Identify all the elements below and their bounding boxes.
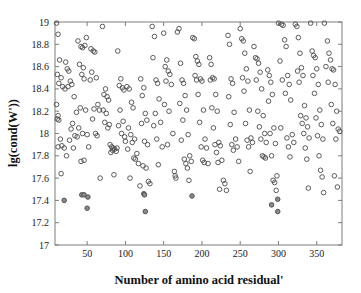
data-point-open xyxy=(232,110,237,115)
data-point-filled xyxy=(269,203,274,208)
data-point-filled xyxy=(275,197,280,202)
data-point-filled xyxy=(275,209,280,214)
data-point-filled xyxy=(143,209,148,214)
data-point-open xyxy=(285,73,290,78)
data-point-open xyxy=(88,78,93,83)
data-point-open xyxy=(145,142,150,147)
data-point-open xyxy=(304,157,309,162)
data-point-open xyxy=(328,58,333,63)
x-tick-label: 350 xyxy=(309,248,324,259)
data-point-open xyxy=(245,138,250,143)
data-point-open xyxy=(160,145,165,150)
data-point-open xyxy=(235,145,240,150)
data-point-open xyxy=(71,146,76,151)
data-point-open xyxy=(177,101,182,106)
data-point-open xyxy=(164,58,169,63)
data-point-open xyxy=(136,161,141,166)
data-point-open xyxy=(295,69,300,74)
data-point-open xyxy=(321,137,326,142)
data-point-open xyxy=(217,187,222,192)
data-point-open xyxy=(319,122,324,127)
data-point-open xyxy=(187,154,192,159)
data-point-open xyxy=(311,73,316,78)
y-tick-label: 18.6 xyxy=(32,61,50,72)
data-point-open xyxy=(69,127,74,132)
data-point-open xyxy=(256,109,261,114)
data-point-open xyxy=(274,188,279,193)
data-point-open xyxy=(229,77,234,82)
data-point-open xyxy=(305,125,310,130)
y-tick-label: 17.4 xyxy=(32,195,50,206)
x-tick-labels: 50100150200250300350 xyxy=(82,248,324,259)
data-point-open xyxy=(243,51,248,56)
data-point-open xyxy=(67,138,72,143)
data-point-filled xyxy=(190,194,195,199)
data-point-open xyxy=(151,123,156,128)
data-point-open xyxy=(203,137,208,142)
data-point-open xyxy=(184,161,189,166)
data-point-open xyxy=(197,120,202,125)
data-point-open xyxy=(182,157,187,162)
data-point-open xyxy=(283,91,288,96)
data-point-open xyxy=(286,145,291,150)
data-point-open xyxy=(233,137,238,142)
data-point-open xyxy=(303,146,308,151)
data-point-open xyxy=(58,137,63,142)
data-point-open xyxy=(267,73,272,78)
data-point-open xyxy=(273,141,278,146)
data-point-open xyxy=(163,64,168,69)
data-point-open xyxy=(297,80,302,85)
data-point-open xyxy=(278,59,283,64)
data-point-open xyxy=(333,82,338,87)
data-point-open xyxy=(290,132,295,137)
data-point-open xyxy=(185,166,190,171)
data-point-open xyxy=(317,154,322,159)
y-tick-label: 18.4 xyxy=(32,83,50,94)
data-point-open xyxy=(83,108,88,113)
data-point-open xyxy=(184,108,189,113)
data-point-open xyxy=(131,106,136,111)
data-point-open xyxy=(161,31,166,36)
data-point-open xyxy=(266,99,271,104)
data-point-open xyxy=(259,87,264,92)
data-point-open xyxy=(268,131,273,136)
data-point-open xyxy=(326,80,331,85)
data-point-open xyxy=(102,120,107,125)
data-point-open xyxy=(82,77,87,82)
x-axis-title: Number of amino acid residual' xyxy=(115,273,284,287)
data-point-open xyxy=(213,92,218,97)
x-tick-label: 50 xyxy=(82,248,92,259)
data-point-open xyxy=(126,126,131,131)
data-point-open xyxy=(121,119,126,124)
data-point-open xyxy=(250,140,255,145)
data-point-open xyxy=(77,62,82,67)
data-point-open xyxy=(264,140,269,145)
data-point-open xyxy=(254,78,259,83)
data-point-open xyxy=(335,185,340,190)
data-point-open xyxy=(269,80,274,85)
data-point-open xyxy=(165,142,170,147)
data-point-open xyxy=(215,109,220,114)
data-point-open xyxy=(298,51,303,56)
data-point-open xyxy=(138,77,143,82)
data-point-open xyxy=(151,55,156,60)
data-point-open xyxy=(141,85,146,90)
data-point-open xyxy=(187,178,192,183)
data-point-open xyxy=(153,111,158,116)
data-point-open xyxy=(243,121,248,126)
y-tick-labels: 1717.217.417.617.81818.218.418.618.819 xyxy=(32,17,50,251)
data-point-open xyxy=(81,65,86,70)
data-point-open xyxy=(171,131,176,136)
data-point-open xyxy=(80,131,85,136)
data-point-open xyxy=(204,146,209,151)
data-point-open xyxy=(288,98,293,103)
data-point-open xyxy=(193,73,198,78)
data-point-open xyxy=(210,106,215,111)
data-point-open xyxy=(314,67,319,72)
data-point-open xyxy=(227,42,232,47)
plot-svg: 50100150200250300350 1717.217.417.617.81… xyxy=(0,0,361,293)
data-point-open xyxy=(228,122,233,127)
data-point-open xyxy=(84,35,89,40)
data-point-open xyxy=(154,137,159,142)
data-point-open xyxy=(275,174,280,179)
